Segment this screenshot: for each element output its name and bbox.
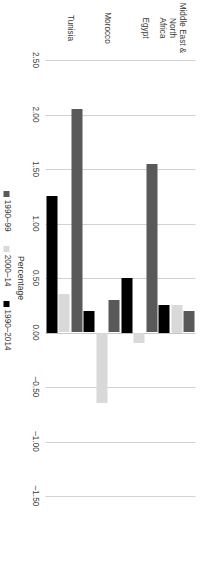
legend-item: 1990–2014	[2, 301, 11, 351]
axis-tick-label: 1.50	[30, 149, 39, 189]
plot-area	[45, 60, 195, 496]
legend-label: 1990–2014	[2, 310, 11, 351]
axis-tick-label: –1.50	[30, 476, 39, 516]
axis-tick-label: –1.00	[30, 422, 39, 462]
legend-swatch	[4, 246, 10, 252]
bar	[58, 294, 69, 332]
axis-tick-label: 2.00	[30, 95, 39, 135]
plot-bars-and-grid	[45, 60, 195, 496]
category-label: Middle East & North Africa	[156, 0, 186, 56]
axis-tick-label: 2.50	[30, 40, 39, 80]
category-label: Tunisia	[64, 0, 74, 56]
bar	[96, 333, 107, 404]
gridline	[45, 496, 195, 497]
bar	[108, 300, 119, 333]
bar	[146, 164, 157, 333]
bar	[121, 278, 132, 333]
axis-tick-label: 1.00	[30, 204, 39, 244]
legend-label: 1990–99	[2, 200, 11, 232]
chart-page: 2.502.001.501.000.500.00–0.50–1.00–1.50 …	[0, 0, 201, 564]
bar-group	[45, 60, 83, 496]
legend-item: 1990–99	[2, 191, 11, 232]
legend-swatch	[4, 191, 10, 197]
axis-tick-label: 0.50	[30, 258, 39, 298]
axis-title: Percentage	[15, 60, 25, 496]
bar	[183, 311, 194, 333]
bar	[171, 305, 182, 332]
legend-swatch	[4, 301, 10, 307]
bar	[133, 333, 144, 344]
bar-group	[83, 60, 121, 496]
chart-legend: 1990–992000–141990–2014	[2, 191, 11, 351]
chart-canvas: 2.502.001.501.000.500.00–0.50–1.00–1.50 …	[0, 0, 201, 564]
category-label: Morocco	[101, 0, 111, 56]
axis-tick-label: 0.00	[30, 313, 39, 353]
bar-group	[120, 60, 158, 496]
bar	[71, 109, 82, 332]
axis-tick-label: –0.50	[30, 367, 39, 407]
bar	[158, 305, 169, 332]
bar	[46, 196, 57, 332]
bar	[83, 311, 94, 333]
legend-item: 2000–14	[2, 246, 11, 287]
category-label: Egypt	[139, 0, 149, 56]
legend-label: 2000–14	[2, 255, 11, 287]
bar-group	[158, 60, 196, 496]
